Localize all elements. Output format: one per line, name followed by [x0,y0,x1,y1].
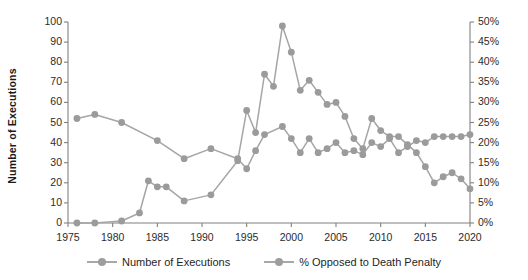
data-point [288,135,295,142]
x-tick-label: 1990 [178,231,226,243]
data-point [163,183,170,190]
y-tick-label-right: 5% [478,196,518,208]
y-tick-label-left: 20 [20,176,62,188]
data-point [252,129,259,136]
y-tick-label-right: 20% [478,136,518,148]
data-point [431,133,438,140]
data-point [74,115,81,122]
data-point [413,149,420,156]
data-point [306,135,313,142]
y-tick-label-left: 30 [20,156,62,168]
legend-label-executions: Number of Executions [122,256,230,268]
y-tick-label-right: 45% [478,35,518,47]
data-point [154,183,161,190]
y-tick-label-left: 40 [20,136,62,148]
x-tick-label: 2015 [401,231,449,243]
data-point [181,197,188,204]
data-point [422,163,429,170]
data-point [440,173,447,180]
data-point [404,143,411,150]
data-point [315,89,322,96]
data-point [261,131,268,138]
y-tick-label-left: 80 [20,55,62,67]
x-tick-label: 1975 [44,231,92,243]
data-point [324,101,331,108]
y-tick-label-right: 50% [478,15,518,27]
data-point [91,220,98,227]
data-point [333,99,340,106]
data-point [422,139,429,146]
axis-lines [68,22,470,223]
data-point [208,145,215,152]
x-tick-label: 2005 [312,231,360,243]
dual-axis-line-chart: Number of Executions Percent Opposed to … [0,0,528,280]
legend-item-opposed: % Opposed to Death Penalty [264,256,441,268]
data-point [279,123,286,130]
data-point [297,87,304,94]
data-point [449,169,456,176]
data-point [395,149,402,156]
y-tick-label-left: 100 [20,15,62,27]
y-tick-label-right: 15% [478,156,518,168]
data-point [458,175,465,182]
data-point [368,115,375,122]
data-point [342,113,349,120]
data-point [350,147,357,154]
data-point [261,71,268,78]
data-point [467,185,474,192]
legend-item-executions: Number of Executions [87,256,230,268]
y-tick-label-left: 60 [20,95,62,107]
y-tick-label-left: 90 [20,35,62,47]
y-tick-label-left: 50 [20,116,62,128]
x-tick-label: 1995 [223,231,271,243]
data-point [279,23,286,30]
left-axis-title: Number of Executions [6,51,18,201]
data-point [440,133,447,140]
data-point [431,179,438,186]
data-point [91,111,98,118]
data-point [324,145,331,152]
data-point [386,135,393,142]
y-tick-label-left: 10 [20,196,62,208]
data-point [154,137,161,144]
x-tick-label: 2020 [446,231,494,243]
data-point [136,210,143,217]
data-point [74,220,81,227]
data-point [350,135,357,142]
data-point [458,133,465,140]
data-point [359,151,366,158]
chart-legend: Number of Executions % Opposed to Death … [0,256,528,268]
legend-label-opposed: % Opposed to Death Penalty [299,256,441,268]
data-point [342,149,349,156]
x-tick-label: 2000 [267,231,315,243]
x-tick-label: 1980 [89,231,137,243]
data-point [377,143,384,150]
data-point [333,139,340,146]
data-point [145,177,152,184]
data-point [208,191,215,198]
data-point [288,49,295,56]
data-point [252,147,259,154]
legend-marker-opposed [264,257,294,267]
data-point [118,218,125,225]
data-point [413,137,420,144]
data-point [395,133,402,140]
y-tick-label-left: 0 [20,216,62,228]
data-point [234,155,241,162]
y-tick-label-right: 30% [478,95,518,107]
series-line-1 [77,114,470,168]
x-tick-label: 2010 [357,231,405,243]
data-point [449,133,456,140]
data-point [315,149,322,156]
y-tick-label-right: 35% [478,75,518,87]
data-point [270,83,277,90]
y-tick-label-left: 70 [20,75,62,87]
y-tick-label-right: 40% [478,55,518,67]
data-point [181,155,188,162]
data-point [467,131,474,138]
data-point [297,149,304,156]
y-tick-label-right: 0% [478,216,518,228]
series-line-0 [77,26,470,223]
data-point [368,139,375,146]
legend-marker-executions [87,257,117,267]
